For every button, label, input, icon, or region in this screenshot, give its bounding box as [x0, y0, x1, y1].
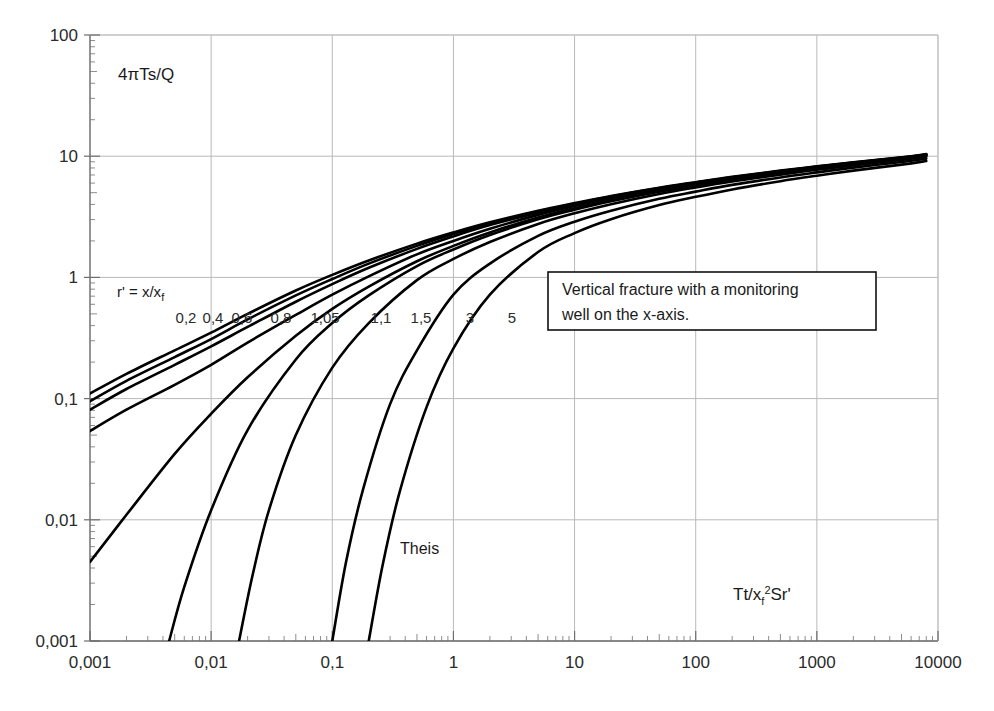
figure-background — [0, 0, 994, 711]
semilog-type-curve-chart: 0,0010,010,1110100100010000 0,0010,010,1… — [0, 0, 994, 711]
curve-label-04: 0,4 — [203, 309, 224, 326]
figure-container: 0,0010,010,1110100100010000 0,0010,010,1… — [0, 0, 994, 711]
y-axis-title: 4πTs/Q — [118, 65, 174, 84]
y-tick-label: 100 — [50, 26, 78, 45]
x-tick-label: 0,01 — [195, 653, 228, 672]
curve-label-11: 1,1 — [371, 309, 392, 326]
curve-label-3: 3 — [466, 309, 474, 326]
curve-label-02: 0,2 — [176, 309, 197, 326]
y-tick-label: 0,01 — [45, 511, 78, 530]
curve-label-15: 1,5 — [411, 309, 432, 326]
curve-label-105: 1,05 — [310, 309, 339, 326]
x-tick-label: 1000 — [798, 653, 836, 672]
x-tick-label: 10 — [565, 653, 584, 672]
note-box: Vertical fracture with a monitoring well… — [548, 272, 876, 330]
x-tick-label: 0,1 — [320, 653, 344, 672]
theis-curve-label: Theis — [400, 540, 439, 557]
y-tick-label: 10 — [59, 147, 78, 166]
x-tick-label: 100 — [682, 653, 710, 672]
x-tick-label: 1 — [449, 653, 458, 672]
curve-label-06: 0,6 — [232, 309, 253, 326]
note-box-line-2: well on the x-axis. — [561, 306, 689, 323]
x-tick-label: 10000 — [914, 653, 961, 672]
note-box-line-1: Vertical fracture with a monitoring — [562, 281, 799, 298]
x-tick-label: 0,001 — [69, 653, 112, 672]
y-tick-label: 0,001 — [35, 632, 78, 651]
y-tick-label: 1 — [69, 268, 78, 287]
y-tick-label: 0,1 — [54, 390, 78, 409]
curve-label-5: 5 — [508, 309, 516, 326]
curve-label-08: 0,8 — [271, 309, 292, 326]
